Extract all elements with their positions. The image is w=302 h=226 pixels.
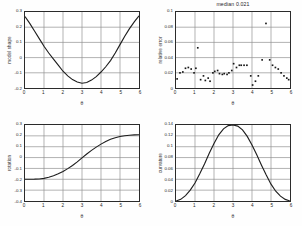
x-tick-labels-curvature: 0 1 2 3 4 5 6 bbox=[151, 113, 302, 226]
x-tick-labels-model-shape: 0 1 2 3 4 5 6 bbox=[0, 0, 151, 113]
x-axis-label-relative-error: θ bbox=[175, 100, 291, 106]
x-tick-labels-relative-error: 0 1 2 3 4 5 6 bbox=[151, 0, 302, 113]
y-axis-label-model-shape: model shape bbox=[5, 11, 14, 89]
panel-relative-error: median 0.021 bbox=[151, 0, 302, 113]
x-tick-labels-rotation: 0 1 2 3 4 5 6 bbox=[0, 113, 151, 226]
panel-rotation: 0.3 0.2 0.1 0 -0.1 -0.2 -0.3 -0.4 0 1 2 … bbox=[0, 113, 151, 226]
x-axis-label-rotation: θ bbox=[24, 213, 140, 219]
x-axis-label-curvature: θ bbox=[175, 213, 291, 219]
panel-curvature: 0.14 0.12 0.1 0.08 0.06 0.04 0.02 0 0 1 … bbox=[151, 113, 302, 226]
y-axis-label-relative-error: relative error bbox=[156, 11, 165, 89]
panel-model-shape: 0.3 0.2 0.1 0 -0.1 -0.2 0 1 2 3 4 5 6 mo… bbox=[0, 0, 151, 113]
y-axis-label-curvature: curvature bbox=[156, 124, 165, 202]
figure-panel-grid: 0.3 0.2 0.1 0 -0.1 -0.2 0 1 2 3 4 5 6 mo… bbox=[0, 0, 302, 226]
x-axis-label-model-shape: θ bbox=[24, 100, 140, 106]
y-axis-label-rotation: rotation bbox=[5, 124, 14, 202]
